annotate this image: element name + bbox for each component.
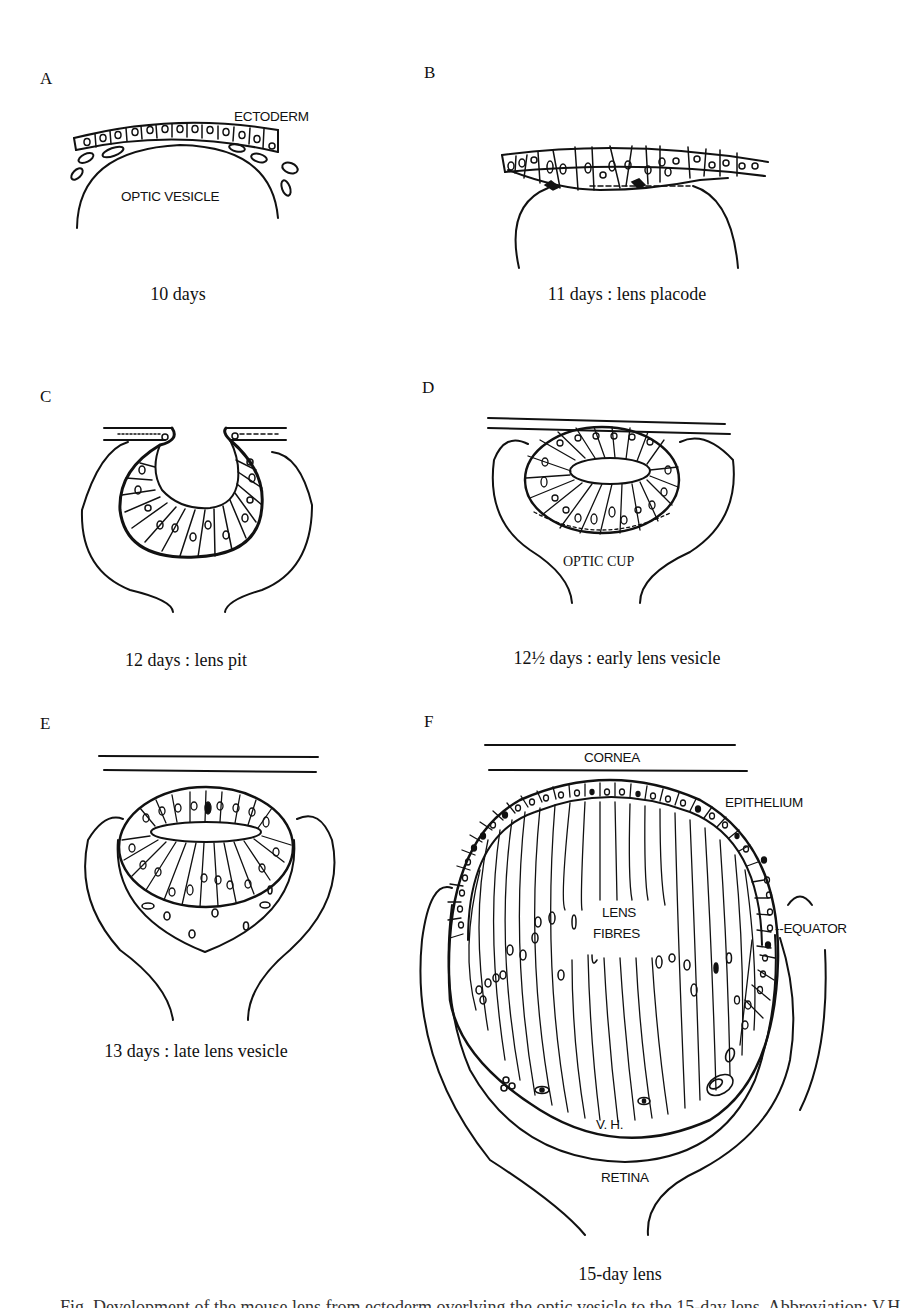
panel-f-drawing: [420, 745, 825, 1235]
label-optic-cup: OPTIC CUP: [563, 554, 634, 570]
panel-a-drawing: [69, 123, 299, 228]
label-epithelium: EPITHELIUM: [725, 795, 803, 810]
label-equator: --EQUATOR: [775, 921, 847, 936]
caption-panel-e: 13 days : late lens vesicle: [104, 1041, 287, 1062]
label-optic-vesicle: OPTIC VESICLE: [121, 189, 219, 204]
label-cornea: CORNEA: [584, 750, 640, 765]
panel-e-drawing: [85, 756, 334, 1020]
panel-c-letter: C: [40, 387, 51, 407]
label-vitreous-humour: V. H.: [596, 1117, 623, 1132]
label-retina: RETINA: [601, 1170, 649, 1185]
panel-f-letter: F: [424, 712, 433, 732]
panel-c-drawing: [82, 428, 312, 612]
caption-panel-b: 11 days : lens placode: [548, 284, 706, 305]
panel-d-drawing: [488, 418, 734, 603]
panel-b-letter: B: [424, 63, 435, 83]
caption-panel-c: 12 days : lens pit: [125, 650, 247, 671]
figure-legend-text: Fig. Development of the mouse lens from …: [60, 1297, 908, 1308]
caption-panel-d: 12½ days : early lens vesicle: [514, 648, 721, 669]
label-ectoderm: ECTODERM: [234, 109, 309, 124]
label-lens-fibres-line2: FIBRES: [593, 926, 640, 941]
panel-d-letter: D: [422, 378, 434, 398]
lens-development-figure: A B C D E F ECTODERM OPTIC VESICLE OPTIC…: [0, 0, 908, 1308]
label-lens-fibres-line1: LENS: [602, 905, 636, 920]
panel-b-drawing: [502, 146, 768, 268]
caption-panel-f: 15-day lens: [578, 1264, 661, 1285]
caption-panel-a: 10 days: [150, 284, 206, 305]
panel-a-letter: A: [40, 69, 52, 89]
figure-legend-cutoff: Fig. Development of the mouse lens from …: [60, 1293, 908, 1308]
panel-e-letter: E: [40, 714, 50, 734]
